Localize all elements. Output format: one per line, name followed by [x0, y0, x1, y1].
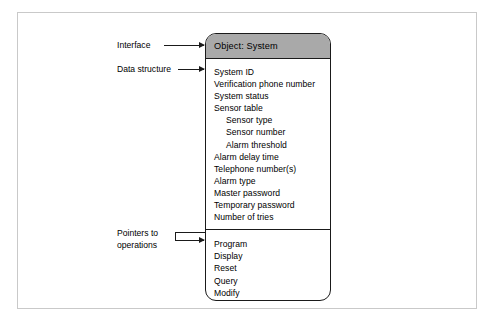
attribute-item: Verification phone number — [214, 78, 330, 90]
annotation-pointers-to-operations: Pointers to operations — [117, 228, 158, 251]
leader-line-pointers-top-segment — [175, 232, 205, 233]
attribute-item: Sensor type — [214, 114, 330, 126]
attribute-item: System ID — [214, 66, 330, 78]
operation-item: Call — [214, 299, 330, 301]
operation-item: Query — [214, 275, 330, 287]
annotation-interface: Interface — [117, 40, 150, 52]
attributes-compartment: System IDVerification phone numberSystem… — [206, 59, 330, 229]
attribute-item: System status — [214, 90, 330, 102]
object-box-header: Object: System — [206, 34, 330, 59]
operations-compartment: ProgramDisplayResetQueryModifyCall — [206, 230, 330, 301]
object-box-title: Object: System — [214, 41, 278, 51]
attribute-item: Alarm type — [214, 175, 330, 187]
leader-line-data-structure-arrow-icon — [178, 69, 204, 70]
attribute-item: Number of tries — [214, 211, 330, 223]
attribute-item: Telephone number(s) — [214, 163, 330, 175]
attribute-item: Temporary password — [214, 199, 330, 211]
attribute-item: Alarm threshold — [214, 139, 330, 151]
annotation-pointers-line-1: Pointers to — [117, 228, 158, 240]
leader-line-pointers-arrow-icon — [175, 240, 204, 241]
operation-item: Display — [214, 250, 330, 262]
operation-item: Modify — [214, 287, 330, 299]
attribute-item: Alarm delay time — [214, 151, 330, 163]
operation-item: Program — [214, 238, 330, 250]
attribute-item: Sensor table — [214, 102, 330, 114]
attribute-item: Sensor number — [214, 126, 330, 138]
annotation-pointers-line-2: operations — [117, 240, 158, 252]
attribute-item: Master password — [214, 187, 330, 199]
operation-item: Reset — [214, 262, 330, 274]
leader-line-interface-arrow-icon — [164, 45, 204, 46]
object-class-box: Object: System System IDVerification pho… — [205, 33, 331, 301]
annotation-data-structure: Data structure — [117, 64, 171, 76]
